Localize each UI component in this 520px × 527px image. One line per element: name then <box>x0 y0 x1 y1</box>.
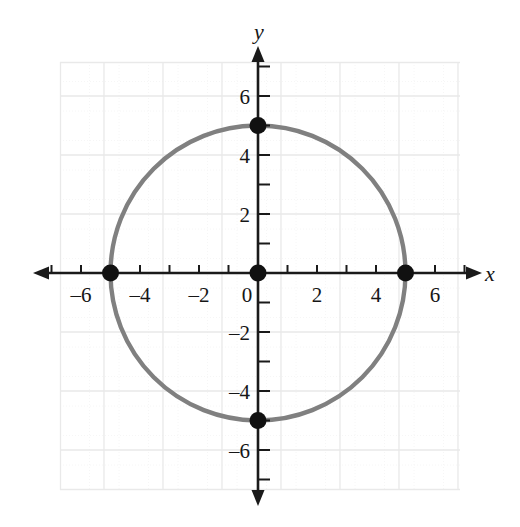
graph-figure: –6 –4 –2 0 2 4 6 6 4 2 –2 –4 –6 x y <box>0 0 520 527</box>
point-marker-left <box>102 265 119 282</box>
y-tick-label: –2 <box>228 321 250 345</box>
y-axis-label: y <box>252 19 264 44</box>
y-tick-label: 4 <box>240 144 251 168</box>
y-tick-label: 6 <box>240 85 251 109</box>
x-tick-label: 2 <box>312 283 323 307</box>
point-marker-bottom <box>250 412 267 429</box>
x-tick-label: 6 <box>430 283 441 307</box>
x-axis-label: x <box>484 261 495 286</box>
y-tick-label: –4 <box>228 380 251 404</box>
coordinate-plane-svg: –6 –4 –2 0 2 4 6 6 4 2 –2 –4 –6 x y <box>0 0 520 527</box>
x-tick-label: –4 <box>129 283 152 307</box>
point-marker-origin <box>250 265 267 282</box>
point-marker-right <box>397 265 414 282</box>
x-tick-label: –6 <box>70 283 92 307</box>
x-tick-label: 4 <box>371 283 382 307</box>
x-tick-label-zero: 0 <box>242 283 253 307</box>
figure-background <box>0 0 520 527</box>
x-tick-label: –2 <box>188 283 210 307</box>
y-tick-label: –6 <box>228 439 250 463</box>
y-tick-label: 2 <box>240 203 251 227</box>
point-marker-top <box>250 117 267 134</box>
